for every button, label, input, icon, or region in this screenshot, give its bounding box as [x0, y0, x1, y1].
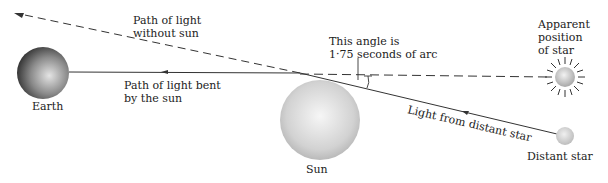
label-distant-star: Distant star: [527, 150, 594, 163]
angle-marker: [358, 58, 372, 88]
label-angle: This angle is 1·75 seconds of arc: [329, 35, 437, 61]
distant-star-icon: [556, 127, 574, 145]
light-bending-diagram: Path of light without sun This angle is …: [0, 0, 608, 183]
label-sun: Sun: [306, 163, 328, 176]
label-apparent-position: Apparent position of star: [537, 18, 593, 57]
label-path-without-sun: Path of light without sun: [133, 14, 205, 40]
label-path-bent: Path of light bent by the sun: [124, 79, 224, 105]
path-without-sun: [14, 13, 548, 77]
apparent-star-icon: [545, 57, 585, 97]
arrowhead-icon: [14, 13, 24, 18]
arrowhead-icon: [462, 111, 469, 115]
earth-globe: [17, 47, 69, 99]
arrowhead-icon: [161, 70, 168, 74]
label-earth: Earth: [32, 100, 63, 113]
sun-globe: [280, 80, 360, 160]
